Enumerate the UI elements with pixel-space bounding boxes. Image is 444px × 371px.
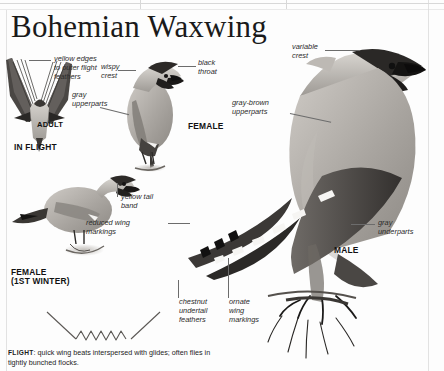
flight-note: FLIGHT: quick wing beats interspersed wi… bbox=[8, 348, 213, 368]
flight-path-diagram bbox=[0, 0, 444, 371]
flight-note-text: quick wing beats interspersed with glide… bbox=[8, 348, 210, 367]
field-guide-page: Bohemian Waxwing bbox=[0, 0, 444, 371]
flight-note-heading: FLIGHT bbox=[8, 349, 34, 356]
